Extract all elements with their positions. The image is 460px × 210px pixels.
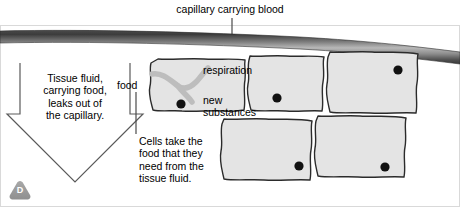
capillary-tissue-fluid-diagram: capillary carrying blood Tissue fluid, c…	[0, 0, 460, 210]
nucleus-top-3	[393, 65, 402, 74]
nucleus-top-1	[176, 99, 185, 108]
capillary-title-label: capillary carrying blood	[0, 3, 460, 15]
cell-bottom-1	[220, 119, 312, 181]
cell-top-3	[326, 52, 418, 114]
respiration-label: respiration	[203, 64, 252, 76]
tissue-fluid-label: Tissue fluid, carrying food, leaks out o…	[27, 72, 123, 122]
cells-take-food-label: Cells take the food that they need from …	[139, 135, 225, 185]
food-label: food	[117, 79, 137, 91]
nucleus-bottom-1	[294, 161, 303, 170]
nucleus-bottom-2	[380, 162, 389, 171]
new-substances-label: new substances	[203, 94, 275, 119]
cell-bottom-2	[314, 116, 406, 178]
badge-letter: D	[9, 185, 31, 195]
